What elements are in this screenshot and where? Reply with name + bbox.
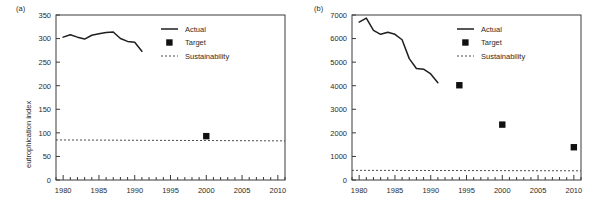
x-tick-label: 1995 [458, 186, 475, 195]
legend-label-target: Target [481, 38, 503, 47]
chart-panel-a: (a) eutrophication index 050100150200250… [0, 0, 296, 206]
y-tick-label: 350 [38, 11, 51, 20]
x-tick-label: 2010 [270, 186, 287, 195]
x-tick-label: 1985 [91, 186, 108, 195]
y-tick-label: 100 [38, 129, 51, 138]
y-tick-label: 4000 [330, 82, 347, 91]
y-tick-label: 2000 [330, 129, 347, 138]
x-tick-label: 2005 [234, 186, 251, 195]
y-tick-label: 6000 [330, 34, 347, 43]
x-tick-label: 1980 [55, 186, 72, 195]
plot-area-b: 0100020003000400050006000700019801985199… [296, 0, 592, 206]
y-tick-label: 0 [47, 176, 51, 185]
target-marker [571, 144, 577, 150]
legend-label-target: Target [185, 38, 207, 47]
legend-label-sustainability: Sustainability [481, 52, 525, 61]
y-tick-label: 200 [38, 82, 51, 91]
chart-panel-b: (b) acidification index per hectare 0100… [296, 0, 592, 206]
target-marker [456, 82, 462, 88]
series-actual-line [359, 18, 438, 83]
y-tick-label: 7000 [330, 11, 347, 20]
y-tick-label: 0 [343, 176, 347, 185]
x-tick-label: 1990 [422, 186, 439, 195]
x-tick-label: 1985 [387, 186, 404, 195]
x-tick-label: 1995 [162, 186, 179, 195]
series-actual-line [63, 32, 142, 51]
target-marker [203, 133, 209, 139]
x-tick-label: 1980 [351, 186, 368, 195]
y-tick-label: 5000 [330, 58, 347, 67]
y-tick-label: 3000 [330, 105, 347, 114]
legend-label-sustainability: Sustainability [185, 52, 229, 61]
x-tick-label: 1990 [126, 186, 143, 195]
legend-swatch-target [462, 39, 468, 45]
x-tick-label: 2000 [198, 186, 215, 195]
legend-swatch-target [166, 39, 172, 45]
y-tick-label: 150 [38, 105, 51, 114]
legend-label-actual: Actual [185, 25, 206, 34]
plot-area-a: 0501001502002503003501980198519901995200… [0, 0, 296, 206]
figure-two-panel-chart: (a) eutrophication index 050100150200250… [0, 0, 592, 206]
y-tick-label: 250 [38, 58, 51, 67]
series-sustainability-line [56, 140, 285, 141]
x-tick-label: 2005 [530, 186, 547, 195]
y-tick-label: 1000 [330, 152, 347, 161]
y-tick-label: 50 [43, 152, 51, 161]
x-tick-label: 2010 [566, 186, 583, 195]
x-tick-label: 2000 [494, 186, 511, 195]
y-tick-label: 300 [38, 34, 51, 43]
legend-label-actual: Actual [481, 25, 502, 34]
target-marker [499, 121, 505, 127]
